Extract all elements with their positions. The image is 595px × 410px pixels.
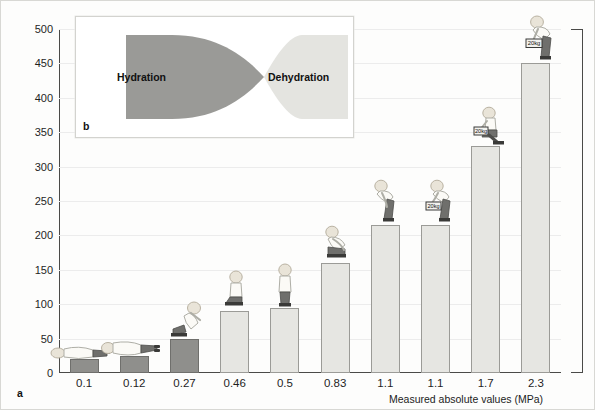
y-tick-label: 100 [7,298,53,310]
x-tick-label: 0.83 [324,377,346,389]
bar [371,225,400,373]
hydration-label: Hydration [117,71,166,83]
bar [421,225,450,373]
x-tick-label: 0.27 [173,377,195,389]
figure-root: Intradiscal pressure (%) 050100150200250… [0,0,595,410]
x-tick-label: 0.46 [223,377,245,389]
y-tick-label: 0 [7,367,53,379]
bar [270,308,299,373]
x-tick-label: 1.1 [377,377,393,389]
y-tick-label: 450 [7,57,53,69]
x-axis-title: Measured absolute values (MPa) [341,393,591,405]
right-axis-bracket [571,29,583,373]
x-tick-label: 0.5 [277,377,293,389]
x-tick-label: 2.3 [528,377,544,389]
x-tick-label: 1.1 [428,377,444,389]
bar [120,356,149,373]
y-tick-label: 250 [7,195,53,207]
y-tick-label: 400 [7,92,53,104]
y-tick-label: 200 [7,229,53,241]
y-tick-label: 350 [7,126,53,138]
y-tick-label: 300 [7,161,53,173]
y-axis-tick-labels: 050100150200250300350400450500 [1,29,53,373]
bar [70,359,99,373]
y-tick-label: 150 [7,264,53,276]
panel-b-inset: Hydration Dehydration b [75,16,354,138]
dehydration-label: Dehydration [268,71,329,83]
panel-b-label: b [83,120,89,132]
y-tick-label: 500 [7,23,53,35]
panel-a-label: a [17,387,23,399]
bar [321,263,350,373]
x-tick-label: 0.12 [123,377,145,389]
bar [220,311,249,373]
bar [521,63,550,373]
bar [170,339,199,373]
x-tick-label: 0.1 [76,377,92,389]
y-tick-label: 50 [7,333,53,345]
bar [471,146,500,373]
x-tick-label: 1.7 [478,377,494,389]
